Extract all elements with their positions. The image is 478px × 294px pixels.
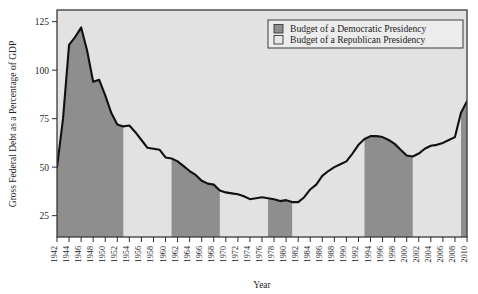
legend-label-democratic: Budget of a Democratic Presidency [290, 23, 427, 34]
x-tick-label: 1982 [291, 246, 300, 262]
x-tick-label: 1962 [171, 246, 180, 262]
x-tick-label: 1986 [315, 246, 324, 262]
x-tick-label: 1960 [159, 246, 168, 262]
x-tick-label: 1966 [195, 246, 204, 262]
x-tick-label: 1970 [219, 246, 228, 262]
debt-area-chart: 255075100125 194219441946194819501952195… [0, 0, 478, 294]
x-tick-label: 1980 [279, 246, 288, 262]
x-tick-label: 2010 [460, 246, 469, 262]
x-tick-label: 1946 [74, 246, 83, 262]
x-tick-label: 1956 [134, 246, 143, 262]
x-tick-label: 1952 [110, 246, 119, 262]
x-axis-label: Year [253, 280, 271, 290]
x-tick-label: 1990 [339, 246, 348, 262]
x-tick-label: 1988 [327, 246, 336, 262]
x-tick-label: 1978 [267, 246, 276, 262]
y-tick-label: 75 [40, 114, 50, 124]
x-tick-label: 1998 [388, 246, 397, 262]
x-tick-label: 1994 [364, 246, 373, 262]
x-tick-label: 1954 [122, 246, 131, 262]
x-tick-label: 1942 [50, 246, 59, 262]
x-tick-label: 1968 [207, 246, 216, 262]
x-tick-label: 2000 [400, 246, 409, 262]
x-tick-label: 2006 [436, 246, 445, 262]
y-tick-label: 25 [40, 211, 50, 221]
y-tick-label: 50 [40, 163, 50, 173]
y-axis-label: Gross Federal Debt as a Percentage of GD… [8, 41, 18, 207]
y-tick-label: 100 [35, 66, 50, 76]
x-tick-label: 1958 [146, 246, 155, 262]
x-tick-label: 1944 [62, 246, 71, 262]
republican-swatch [274, 36, 283, 45]
x-tick-label: 1996 [376, 246, 385, 262]
x-tick-label: 1948 [86, 246, 95, 262]
x-tick-label: 1972 [231, 246, 240, 262]
x-tick-label: 1984 [303, 246, 312, 262]
x-tick-label: 2008 [448, 246, 457, 262]
legend-label-republican: Budget of a Republican Presidency [290, 34, 426, 45]
x-tick-label: 1964 [183, 246, 192, 262]
y-tick-label: 125 [35, 17, 50, 27]
x-tick-label: 2002 [412, 246, 421, 262]
legend: Budget of a Democratic Presidency Budget… [268, 20, 463, 48]
x-tick-label: 1992 [351, 246, 360, 262]
x-tick-label: 2004 [424, 246, 433, 262]
chart-figure: 255075100125 194219441946194819501952195… [0, 0, 478, 294]
x-tick-label: 1950 [98, 246, 107, 262]
x-tick-label: 1976 [255, 246, 264, 262]
democratic-swatch [274, 25, 283, 34]
x-tick-label: 1974 [243, 246, 252, 262]
